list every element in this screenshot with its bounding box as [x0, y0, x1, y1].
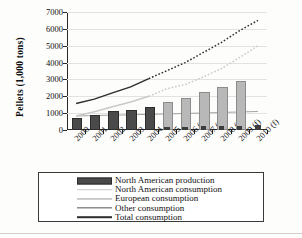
- bar: [163, 102, 173, 130]
- bar: [126, 110, 136, 130]
- bar: [199, 92, 209, 130]
- chart-figure: Pellets (1,000 tons) 0100020003000400050…: [0, 0, 302, 238]
- bar: [145, 107, 155, 130]
- legend-label: Total consumption: [115, 213, 182, 222]
- legend-swatch-icon: [77, 176, 112, 185]
- y-tick-label: 4000: [29, 58, 63, 68]
- bar: [237, 126, 242, 130]
- y-tick-label: 3000: [29, 74, 63, 84]
- y-tick-label: 5000: [29, 41, 63, 51]
- bottom-divider: [0, 233, 302, 234]
- y-tick-label: 6000: [29, 24, 63, 34]
- y-tick-label: 0: [29, 125, 63, 135]
- legend-swatch-icon: [77, 185, 112, 194]
- bar: [219, 126, 224, 130]
- bar: [217, 87, 227, 130]
- bar: [164, 127, 169, 130]
- legend-swatch-icon: [77, 204, 112, 213]
- y-tick-label: 1000: [29, 108, 63, 118]
- bar: [236, 81, 246, 130]
- plot-area: 01000200030004000500060007000 2000200120…: [67, 12, 267, 130]
- chart-legend: North American productionNorth American …: [38, 172, 264, 222]
- bar: [108, 111, 118, 130]
- bar: [72, 118, 82, 130]
- legend-swatch-icon: [77, 194, 112, 203]
- bar: [90, 115, 100, 130]
- bar: [201, 126, 206, 130]
- bar: [182, 127, 187, 130]
- line-series: [149, 20, 258, 78]
- bar: [255, 125, 260, 130]
- y-tick-label: 2000: [29, 91, 63, 101]
- y-tick-label: 7000: [29, 7, 63, 17]
- legend-swatch-icon: [77, 213, 112, 222]
- y-tick: [63, 130, 67, 131]
- bar: [181, 98, 191, 130]
- y-axis-title: Pellets (1,000 tons): [15, 17, 25, 137]
- legend-item[interactable]: Total consumption: [77, 213, 263, 222]
